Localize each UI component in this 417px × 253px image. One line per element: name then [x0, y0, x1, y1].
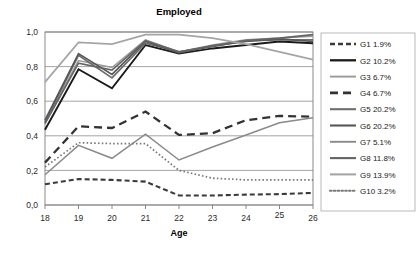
legend-label-9: G9 13.9% — [360, 171, 396, 180]
x-axis-tick-label: 19 — [74, 213, 84, 223]
chart-container: Employed0,00,20,40,60,81,018192021222324… — [0, 0, 417, 253]
x-axis-tick-label: 22 — [174, 213, 184, 223]
legend-label-5: G5 20.2% — [360, 105, 396, 114]
legend-label-8: G8 11.8% — [360, 154, 395, 163]
y-axis-tick-label: 0,0 — [26, 200, 38, 210]
y-axis-tick-label: 0,8 — [26, 62, 38, 72]
legend-label-4: G4 6.7% — [360, 89, 391, 98]
x-axis-tick-label: 26 — [308, 213, 318, 223]
x-axis-title: Age — [170, 228, 187, 238]
x-axis-tick-label: 18 — [40, 213, 50, 223]
legend-label-10: G10 3.2% — [360, 187, 396, 196]
legend-label-3: G3 6.7% — [360, 73, 391, 82]
y-axis-tick-label: 0,4 — [26, 131, 38, 141]
y-axis-tick-label: 0,2 — [26, 166, 38, 176]
employed-line-chart: Employed0,00,20,40,60,81,018192021222324… — [0, 0, 417, 253]
x-axis-tick-label: 25 — [275, 210, 285, 220]
y-axis-tick-label: 0,6 — [26, 96, 38, 106]
x-axis-tick-label: 21 — [141, 213, 151, 223]
legend-label-7: G7 5.1% — [360, 138, 391, 147]
x-axis-tick-label: 20 — [107, 213, 117, 223]
x-axis-tick-label: 24 — [241, 213, 251, 223]
legend-label-6: G6 20.2% — [360, 122, 396, 131]
y-axis-tick-label: 1,0 — [26, 27, 38, 37]
legend-label-2: G2 10.2% — [360, 57, 396, 66]
legend-label-1: G1 1.9% — [360, 40, 391, 49]
x-axis-tick-label: 23 — [208, 213, 218, 223]
chart-title: Employed — [156, 6, 202, 17]
